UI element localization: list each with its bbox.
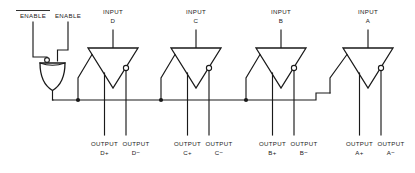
buffer-a <box>330 30 393 135</box>
input-a-label-line1: INPUT <box>358 8 378 15</box>
output-c-plus-label-line2: C+ <box>183 149 192 156</box>
buffer-d <box>78 30 138 135</box>
output-c-minus-label-line1: OUTPUT <box>205 140 232 147</box>
buffer-b <box>246 30 306 135</box>
schematic-canvas: ENABLE ENABLE INPUT D INPUT C INPUT B IN… <box>0 0 415 173</box>
enable-or-gate <box>40 63 65 91</box>
output-a-minus-label-line1: OUTPUT <box>377 140 404 147</box>
enable-gate-output-wire <box>53 91 54 101</box>
enable-label: ENABLE <box>55 12 81 19</box>
output-c-plus-label-line1: OUTPUT <box>174 140 201 147</box>
logic-diagram: ENABLE ENABLE INPUT D INPUT C INPUT B IN… <box>0 0 415 173</box>
output-c-minus-label-line2: C− <box>215 149 224 156</box>
input-b-label-line1: INPUT <box>271 8 291 15</box>
input-c-label-line1: INPUT <box>186 8 206 15</box>
input-b-label-line2: B <box>279 17 283 24</box>
input-d-label-line1: INPUT <box>103 8 123 15</box>
enable-bus <box>53 93 331 100</box>
output-b-plus-label-line2: B+ <box>268 149 276 156</box>
input-a-label-line2: A <box>366 17 371 24</box>
enable-bar-input-wire <box>33 22 47 62</box>
or-gate-input-bubble <box>45 58 50 63</box>
input-d-label-line2: D <box>111 17 116 24</box>
buffer-b-output-bubble <box>291 65 296 70</box>
enable-input-wire <box>58 22 69 61</box>
output-b-plus-label-line1: OUTPUT <box>259 140 286 147</box>
output-d-minus-label-line1: OUTPUT <box>122 140 149 147</box>
output-b-minus-label-line1: OUTPUT <box>290 140 317 147</box>
buffer-c <box>161 30 221 135</box>
buffer-a-output-bubble <box>378 65 383 70</box>
output-d-plus-label-line1: OUTPUT <box>91 140 118 147</box>
buffer-c-output-bubble <box>206 65 211 70</box>
output-a-plus-label-line2: A+ <box>355 149 363 156</box>
output-d-minus-label-line2: D− <box>132 149 141 156</box>
output-d-plus-label-line2: D+ <box>100 149 109 156</box>
enable-bar-label: ENABLE <box>20 12 46 19</box>
output-a-minus-label-line2: A− <box>387 149 395 156</box>
input-c-label-line2: C <box>194 17 199 24</box>
output-b-minus-label-line2: B− <box>300 149 308 156</box>
buffer-d-output-bubble <box>123 65 128 70</box>
output-a-plus-label-line1: OUTPUT <box>346 140 373 147</box>
